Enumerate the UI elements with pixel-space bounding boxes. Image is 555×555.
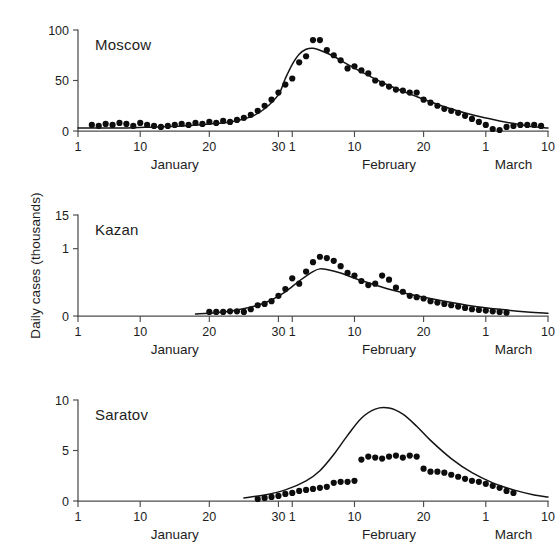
panel-title-moscow: Moscow [95, 36, 151, 53]
data-point [103, 121, 109, 127]
data-point [469, 306, 475, 312]
data-point [317, 254, 323, 260]
data-point [448, 472, 454, 478]
data-point [414, 453, 420, 459]
y-tick-label: 50 [55, 74, 69, 88]
y-tick-label: 5 [62, 444, 69, 458]
x-tick-label: 1 [289, 510, 296, 524]
data-point [414, 90, 420, 96]
x-axis-month-label: March [495, 527, 533, 542]
x-tick-label: 1 [482, 325, 489, 339]
data-point [317, 485, 323, 491]
data-point [123, 121, 129, 127]
data-point [476, 119, 482, 125]
x-axis-month-label: February [362, 527, 416, 542]
data-point [151, 123, 157, 129]
data-point [324, 255, 330, 261]
x-tick-label: 1 [75, 325, 82, 339]
panel-kazan: Kazan 0115110203011020110JanuaryFebruary… [0, 185, 555, 365]
data-point [379, 273, 385, 279]
model-fit-curve [78, 48, 548, 128]
data-point [275, 493, 281, 499]
data-point [116, 120, 122, 126]
x-tick-label: 10 [133, 325, 147, 339]
data-point [351, 478, 357, 484]
data-point [331, 258, 337, 264]
x-tick-label: 1 [482, 510, 489, 524]
data-point [338, 479, 344, 485]
data-point [282, 491, 288, 497]
data-point [407, 452, 413, 458]
data-point [358, 456, 364, 462]
data-point [393, 452, 399, 458]
data-point [503, 124, 509, 130]
data-point [289, 490, 295, 496]
data-point [400, 454, 406, 460]
observed-data-points [255, 452, 517, 502]
data-point [490, 126, 496, 132]
x-tick-label: 10 [133, 140, 147, 154]
panel-title-kazan: Kazan [95, 221, 139, 238]
data-point [420, 466, 426, 472]
data-point [462, 476, 468, 482]
x-tick-label: 1 [289, 140, 296, 154]
model-fit-curve [196, 269, 549, 314]
data-point [109, 122, 115, 128]
x-axis-month-label: March [495, 157, 533, 172]
x-tick-label: 10 [541, 140, 555, 154]
panel-title-saratov: Saratov [95, 406, 148, 423]
data-point [469, 478, 475, 484]
x-tick-label: 1 [75, 510, 82, 524]
x-tick-label: 20 [417, 325, 431, 339]
chart-moscow: 050100110203011020110JanuaryFebruaryMarc… [0, 0, 555, 180]
x-axis-month-label: January [151, 157, 199, 172]
x-tick-label: 10 [348, 510, 362, 524]
data-point [386, 453, 392, 459]
x-tick-label: 20 [202, 140, 216, 154]
data-point [386, 277, 392, 283]
data-point [310, 259, 316, 265]
x-tick-label: 20 [202, 325, 216, 339]
data-point [310, 37, 316, 43]
x-tick-label: 30 [271, 140, 285, 154]
x-tick-label: 1 [482, 140, 489, 154]
chart-saratov: 0510110203011020110JanuaryFebruaryMarch [0, 372, 555, 555]
x-tick-label: 10 [541, 510, 555, 524]
epidemic-curves-figure: Daily cases (thousands) Moscow 050100110… [0, 0, 555, 555]
x-tick-label: 10 [348, 325, 362, 339]
data-point [296, 59, 302, 65]
y-tick-label: 0 [62, 495, 69, 509]
x-axis-month-label: January [151, 527, 199, 542]
y-tick-label: 1 [62, 242, 69, 256]
data-point [303, 53, 309, 59]
x-tick-label: 10 [541, 325, 555, 339]
y-tick-label: 100 [48, 24, 69, 38]
data-point [365, 453, 371, 459]
x-tick-label: 30 [271, 325, 285, 339]
data-point [476, 479, 482, 485]
y-tick-label: 15 [55, 209, 69, 223]
data-point [268, 494, 274, 500]
data-point [310, 486, 316, 492]
data-point [483, 122, 489, 128]
x-axis-month-label: February [362, 342, 416, 357]
x-tick-label: 30 [271, 510, 285, 524]
data-point [372, 454, 378, 460]
data-point [317, 37, 323, 43]
data-point [137, 120, 143, 126]
x-tick-label: 1 [289, 325, 296, 339]
data-point [172, 122, 178, 128]
x-axis-month-label: February [362, 157, 416, 172]
chart-kazan: 0115110203011020110JanuaryFebruaryMarch [0, 185, 555, 365]
x-axis-month-label: January [151, 342, 199, 357]
x-tick-label: 20 [417, 510, 431, 524]
data-point [434, 469, 440, 475]
y-tick-label: 0 [62, 310, 69, 324]
y-tick-label: 10 [55, 394, 69, 408]
x-tick-label: 20 [417, 140, 431, 154]
data-point [303, 487, 309, 493]
data-point [483, 481, 489, 487]
x-axis-month-label: March [495, 342, 533, 357]
data-point [89, 122, 95, 128]
panel-saratov: Saratov 0510110203011020110JanuaryFebrua… [0, 372, 555, 555]
